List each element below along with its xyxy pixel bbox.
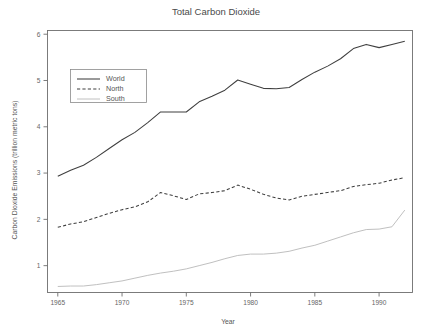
series-line-world bbox=[58, 41, 405, 176]
x-tick-label: 1970 bbox=[115, 299, 130, 306]
y-tick-label: 2 bbox=[37, 216, 41, 223]
carbon-dioxide-line-chart: Total Carbon Dioxide Carbon Dioxide Emis… bbox=[0, 0, 433, 330]
y-tick-label: 3 bbox=[37, 169, 41, 176]
y-tick-label: 4 bbox=[37, 123, 41, 130]
legend-label-north: North bbox=[106, 84, 124, 93]
y-tick-label: 1 bbox=[37, 262, 41, 269]
x-tick-label: 1990 bbox=[372, 299, 387, 306]
y-tick-label: 5 bbox=[37, 77, 41, 84]
chart-title: Total Carbon Dioxide bbox=[172, 6, 260, 17]
series-line-south bbox=[58, 210, 405, 286]
x-axis: 196519701975198019851990 bbox=[50, 293, 386, 307]
legend-label-south: South bbox=[106, 94, 125, 103]
y-axis-title: Carbon Dioxide Emissions (trillion metri… bbox=[11, 100, 19, 239]
x-tick-label: 1965 bbox=[50, 299, 65, 306]
series-line-north bbox=[58, 178, 405, 228]
x-axis-title: Year bbox=[221, 318, 235, 325]
chart-container: Total Carbon Dioxide Carbon Dioxide Emis… bbox=[0, 0, 433, 330]
x-tick-label: 1975 bbox=[179, 299, 194, 306]
y-axis: 123456 bbox=[37, 31, 48, 269]
x-tick-label: 1980 bbox=[243, 299, 258, 306]
y-tick-label: 6 bbox=[37, 31, 41, 38]
chart-legend: WorldNorthSouth bbox=[71, 70, 147, 104]
x-tick-label: 1985 bbox=[307, 299, 322, 306]
legend-label-world: World bbox=[106, 74, 125, 83]
